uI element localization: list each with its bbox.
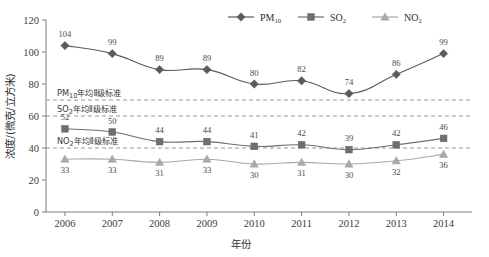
x-axis-title: 年份 [231,238,252,250]
x-axis-tick-label: 2009 [196,218,217,229]
x-axis-tick-label: 2014 [433,218,455,229]
data-label-NO2: 31 [297,168,306,178]
data-label-PM10: 104 [58,29,72,39]
x-axis-tick-label: 2008 [149,218,170,229]
x-axis-tick-label: 2012 [338,218,359,229]
series-marker-SO2 [298,141,305,148]
data-label-NO2: 30 [250,170,259,180]
x-axis-tick-label: 2006 [54,218,75,229]
y-axis-tick-label: 40 [29,143,40,154]
air-quality-line-chart: 0204060801001202006200720082009201020112… [0,0,489,257]
data-label-SO2: 42 [392,128,401,138]
data-label-NO2: 33 [61,165,70,175]
y-axis-tick-label: 80 [29,79,40,90]
series-marker-SO2 [204,138,211,145]
data-label-SO2: 42 [297,128,306,138]
series-marker-SO2 [156,138,163,145]
y-axis-tick-label: 60 [29,111,40,122]
data-label-PM10: 82 [297,64,306,74]
data-label-PM10: 80 [250,68,259,78]
y-axis-title: 浓度/(微克/立方米) [4,73,16,158]
data-label-NO2: 30 [345,170,354,180]
data-label-PM10: 89 [155,53,164,63]
data-label-NO2: 33 [108,165,117,175]
data-label-SO2: 52 [61,112,70,122]
series-marker-SO2 [251,143,258,150]
data-label-PM10: 74 [345,77,354,87]
data-label-SO2: 39 [345,133,354,143]
data-label-NO2: 31 [155,168,164,178]
series-marker-SO2 [440,135,447,142]
data-label-SO2: 41 [250,130,259,140]
x-axis-tick-label: 2007 [102,218,123,229]
data-label-PM10: 99 [108,37,117,47]
data-label-SO2: 44 [155,125,164,135]
chart-page: 0204060801001202006200720082009201020112… [0,0,489,257]
legend-marker-SO2 [308,14,315,21]
data-label-NO2: 33 [203,165,212,175]
data-label-SO2: 50 [108,116,117,126]
x-axis-tick-label: 2011 [291,218,312,229]
series-marker-SO2 [109,129,116,136]
data-label-NO2: 36 [439,160,448,170]
series-marker-SO2 [393,141,400,148]
y-axis-tick-label: 20 [29,175,40,186]
x-axis-tick-label: 2010 [244,218,265,229]
series-marker-SO2 [346,146,353,153]
y-axis-tick-label: 0 [34,207,39,218]
data-label-SO2: 44 [203,125,212,135]
data-label-PM10: 89 [203,53,212,63]
y-axis-tick-label: 100 [23,47,39,58]
x-axis-tick-label: 2013 [386,218,407,229]
data-label-PM10: 86 [392,58,401,68]
data-label-SO2: 46 [439,122,448,132]
data-label-NO2: 32 [392,167,401,177]
data-label-PM10: 99 [439,37,448,47]
series-marker-SO2 [62,125,69,132]
y-axis-tick-label: 120 [23,15,39,26]
